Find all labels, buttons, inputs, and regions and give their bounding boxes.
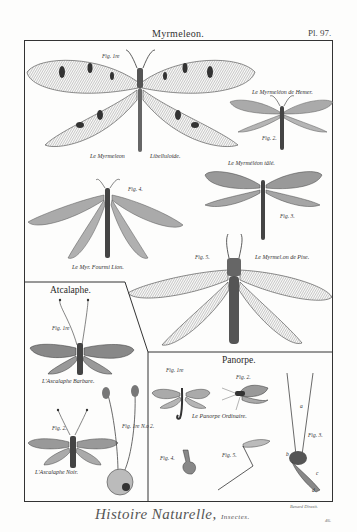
footer-title: Histoire Naturelle, Insectes. bbox=[95, 506, 250, 523]
panorpe-fig5-leg-illustration bbox=[0, 0, 357, 532]
page-number: 46. bbox=[325, 518, 331, 523]
footer-subtitle: Insectes. bbox=[221, 513, 250, 521]
fig-label: Fig. 5. bbox=[222, 452, 237, 458]
engraver-credit: Benard Direxit. bbox=[290, 504, 318, 509]
footer-main-title: Histoire Naturelle, bbox=[95, 506, 217, 522]
